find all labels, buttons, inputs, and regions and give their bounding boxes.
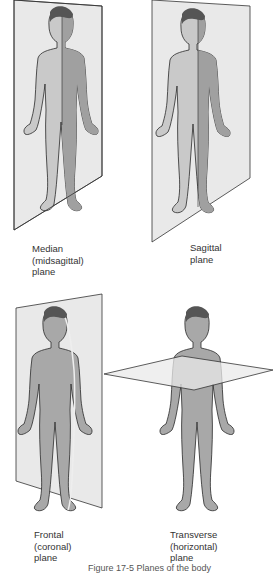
sagittal-plane-illustration [136, 0, 273, 250]
figure-caption: Figure 17-5 Planes of the body [88, 563, 211, 573]
frontal-plane-illustration [0, 286, 136, 526]
median-plane-illustration [0, 0, 136, 240]
median-plane-label: Median (midsagittal) plane [32, 243, 84, 278]
transverse-plane-label: Transverse (horizontal) plane [170, 529, 218, 564]
panel-transverse-plane: Transverse (horizontal) plane [136, 286, 273, 572]
panel-frontal-plane: Frontal (coronal) plane [0, 286, 136, 572]
frontal-plane-label: Frontal (coronal) plane [34, 529, 72, 564]
transverse-plane-illustration [136, 286, 273, 526]
panel-sagittal-plane: Sagittal plane [136, 0, 273, 286]
panel-median-plane: Median (midsagittal) plane [0, 0, 136, 286]
sagittal-plane-label: Sagittal plane [190, 242, 222, 265]
